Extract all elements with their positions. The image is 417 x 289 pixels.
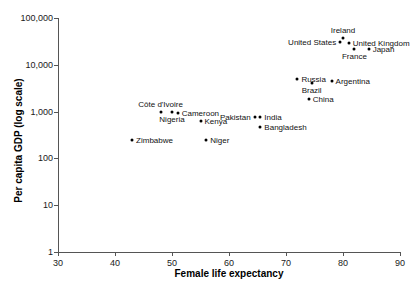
point-label: Niger xyxy=(210,135,229,144)
data-point xyxy=(347,42,350,45)
data-point xyxy=(310,82,313,85)
data-point xyxy=(339,41,342,44)
data-point xyxy=(171,111,174,114)
data-point xyxy=(259,125,262,128)
x-tick-label: 60 xyxy=(224,258,234,268)
point-label: Argentina xyxy=(336,76,370,85)
data-point xyxy=(367,47,370,50)
point-label: Nigeria xyxy=(159,115,184,124)
data-point xyxy=(296,77,299,80)
y-tick-mark xyxy=(54,112,58,113)
y-axis-line xyxy=(58,18,59,252)
y-tick-mark xyxy=(54,18,58,19)
data-point xyxy=(307,97,310,100)
data-point xyxy=(259,116,262,119)
point-label: Cameroon xyxy=(182,108,219,117)
x-tick-mark xyxy=(286,252,287,256)
y-tick-label: 10 xyxy=(43,200,53,210)
y-tick-label: 1,000 xyxy=(30,107,53,117)
y-tick-mark xyxy=(54,65,58,66)
point-label: France xyxy=(342,52,367,61)
x-tick-mark xyxy=(58,252,59,256)
point-label: India xyxy=(264,113,281,122)
x-tick-label: 50 xyxy=(167,258,177,268)
x-tick-mark xyxy=(400,252,401,256)
data-point xyxy=(253,116,256,119)
data-point xyxy=(199,120,202,123)
point-label: Zimbabwe xyxy=(136,135,173,144)
point-label: Japan xyxy=(373,44,395,53)
y-tick-label: 100,000 xyxy=(20,13,53,23)
y-tick-label: 1 xyxy=(48,247,53,257)
x-tick-label: 70 xyxy=(281,258,291,268)
point-label: China xyxy=(313,94,334,103)
x-tick-mark xyxy=(343,252,344,256)
y-tick-mark xyxy=(54,205,58,206)
point-label: Kenya xyxy=(205,117,228,126)
data-point xyxy=(205,138,208,141)
data-point xyxy=(131,138,134,141)
data-point xyxy=(353,47,356,50)
point-label: United States xyxy=(288,38,336,47)
point-label: Ireland xyxy=(331,26,355,35)
x-tick-label: 80 xyxy=(338,258,348,268)
data-point xyxy=(342,36,345,39)
x-tick-label: 90 xyxy=(395,258,405,268)
y-tick-mark xyxy=(54,158,58,159)
x-tick-mark xyxy=(229,252,230,256)
x-tick-mark xyxy=(172,252,173,256)
y-axis-title: Per capita GDP (log scale) xyxy=(13,66,24,216)
data-point xyxy=(176,111,179,114)
scatter-chart: 1101001,00010,000100,000 30405060708090 … xyxy=(0,0,417,289)
point-label: Russia xyxy=(301,74,325,83)
y-tick-label: 100 xyxy=(38,153,53,163)
x-tick-mark xyxy=(115,252,116,256)
x-axis-title: Female life expectancy xyxy=(58,268,400,279)
point-label: Bangladesh xyxy=(264,122,306,131)
x-tick-label: 40 xyxy=(110,258,120,268)
point-label: Côte d'Ivoire xyxy=(138,100,183,109)
data-point xyxy=(330,79,333,82)
data-point xyxy=(159,111,162,114)
x-tick-label: 30 xyxy=(53,258,63,268)
y-tick-label: 10,000 xyxy=(25,60,53,70)
